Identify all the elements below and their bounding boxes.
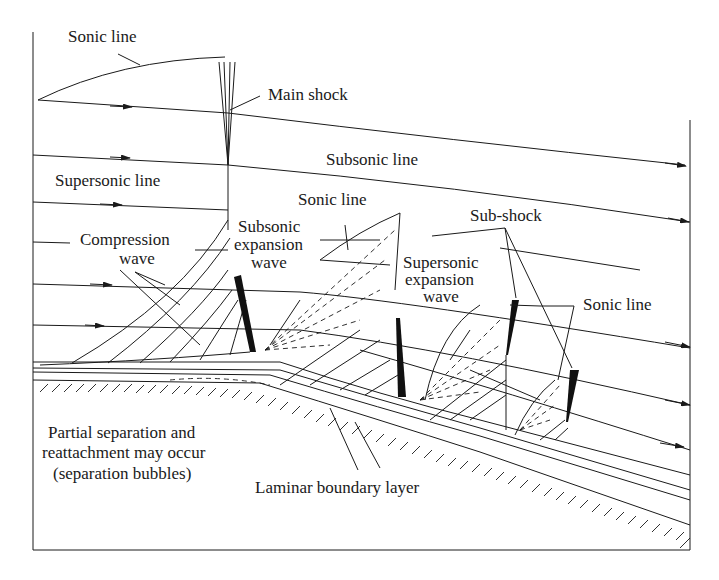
label-subsonic-line: Subsonic line — [326, 150, 418, 169]
shock-2 — [396, 318, 406, 397]
label-supersonic-line: Supersonic line — [55, 171, 160, 190]
label-sub-shock: Sub-shock — [470, 206, 542, 225]
label-sonic-line-mid: Sonic line — [298, 190, 366, 209]
shock-interaction-diagram: Sonic line Main shock Subsonic line Supe… — [0, 0, 719, 580]
label-subsonic-expansion-2: expansion — [234, 235, 303, 254]
label-main-shock: Main shock — [268, 85, 348, 104]
main-shock — [219, 62, 260, 230]
label-subsonic-expansion-3: wave — [251, 253, 287, 272]
label-separation-1: Partial separation and — [48, 423, 196, 442]
label-compression-wave-2: wave — [119, 249, 155, 268]
label-sonic-line-top: Sonic line — [68, 27, 136, 46]
shock-3 — [506, 300, 519, 355]
label-compression-wave-1: Compression — [80, 230, 170, 249]
label-subsonic-expansion-1: Subsonic — [238, 217, 301, 236]
shock-1 — [234, 275, 256, 352]
sonic-line-top — [38, 57, 225, 100]
label-separation-3: (separation bubbles) — [53, 464, 191, 483]
label-laminar-boundary-layer: Laminar boundary layer — [255, 478, 420, 497]
label-supersonic-expansion-3: wave — [423, 287, 459, 306]
label-sonic-line-right: Sonic line — [583, 295, 651, 314]
label-separation-2: reattachment may occur — [42, 443, 206, 462]
